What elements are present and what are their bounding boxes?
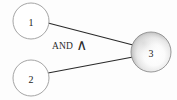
node-2[interactable]: 2	[13, 60, 49, 96]
node-3-label: 3	[149, 48, 154, 59]
graph-svg: 1 2 3	[0, 0, 177, 100]
annotation-label: AND	[52, 41, 73, 51]
node-3[interactable]: 3	[131, 32, 171, 72]
node-1[interactable]: 1	[13, 3, 49, 39]
edge-annotation-and: AND ∧	[52, 38, 87, 53]
logical-and-wedge-icon: ∧	[76, 38, 87, 53]
diagram-canvas: 1 2 3 AND ∧	[0, 0, 177, 100]
node-1-label: 1	[29, 17, 34, 28]
edge-node2-to-node3[interactable]	[48, 57, 133, 73]
node-2-label: 2	[29, 74, 34, 85]
